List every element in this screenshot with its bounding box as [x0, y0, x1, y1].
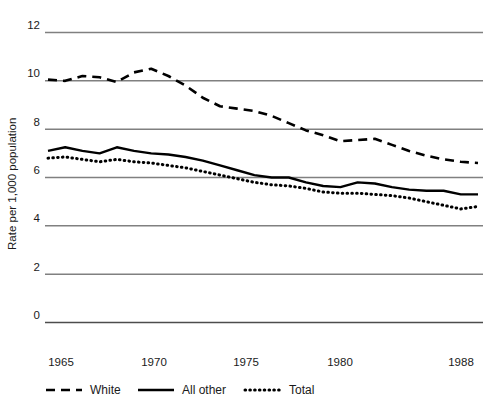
legend-label-white: White [90, 383, 121, 397]
chart-figure: 12 10 8 6 4 2 0 Rate per 1,000 populatio… [0, 0, 494, 408]
y-tick-label-0: 0 [34, 309, 40, 321]
x-tick-label-1988: 1988 [448, 356, 474, 368]
legend-label-total: Total [289, 383, 314, 397]
legend-label-all-other: All other [182, 383, 226, 397]
y-tick-label-4: 4 [34, 212, 41, 224]
chart-background [0, 0, 494, 408]
x-tick-label-1980: 1980 [327, 356, 353, 368]
x-tick-label-1965: 1965 [48, 356, 74, 368]
line-chart-svg: 12 10 8 6 4 2 0 Rate per 1,000 populatio… [0, 0, 494, 408]
y-tick-label-6: 6 [34, 164, 40, 176]
y-axis-title: Rate per 1,000 population [6, 118, 18, 250]
y-tick-label-8: 8 [34, 116, 40, 128]
y-tick-label-10: 10 [27, 67, 40, 79]
x-tick-label-1970: 1970 [141, 356, 167, 368]
x-tick-label-1975: 1975 [233, 356, 259, 368]
y-tick-label-2: 2 [34, 261, 40, 273]
y-tick-label-12: 12 [27, 19, 40, 31]
